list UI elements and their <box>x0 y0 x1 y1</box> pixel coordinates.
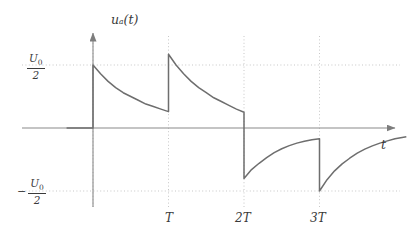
axes <box>22 33 395 207</box>
y-tick-numerator-symbol-negative: U <box>30 177 39 189</box>
y-tick-numerator-symbol: U <box>29 52 38 64</box>
y-tick-numerator-negative: U0 <box>28 178 46 194</box>
y-tick-fraction-negative: U0 2 <box>28 178 46 205</box>
y-tick-label-negative: − U0 2 <box>17 178 46 205</box>
x-tick-label-3T: 3T <box>310 212 326 224</box>
waveform-path <box>67 54 407 191</box>
y-tick-numerator-subscript-negative: 0 <box>39 183 44 192</box>
y-axis-title-tail: (t) <box>124 12 139 27</box>
x-tick-label-T: T <box>165 212 173 224</box>
y-tick-denominator-positive: 2 <box>27 69 45 81</box>
x-axis-title: t <box>381 139 386 152</box>
figure-canvas: ua(t) t U0 2 − U0 2 T 2T 3T <box>0 0 411 251</box>
x-tick-label-2T: 2T <box>235 212 251 224</box>
waveform-plot <box>0 0 411 251</box>
y-tick-denominator-negative: 2 <box>28 194 46 206</box>
gridlines <box>22 36 400 207</box>
y-tick-numerator-subscript: 0 <box>38 58 43 67</box>
y-tick-label-positive: U0 2 <box>27 53 45 80</box>
y-tick-fraction-positive: U0 2 <box>27 53 45 80</box>
waveform-curve <box>67 54 407 191</box>
y-tick-numerator-positive: U0 <box>27 53 45 69</box>
y-tick-minus-sign: − <box>17 186 26 197</box>
y-axis-title: ua(t) <box>111 14 138 27</box>
y-axis-title-base: u <box>111 12 119 27</box>
